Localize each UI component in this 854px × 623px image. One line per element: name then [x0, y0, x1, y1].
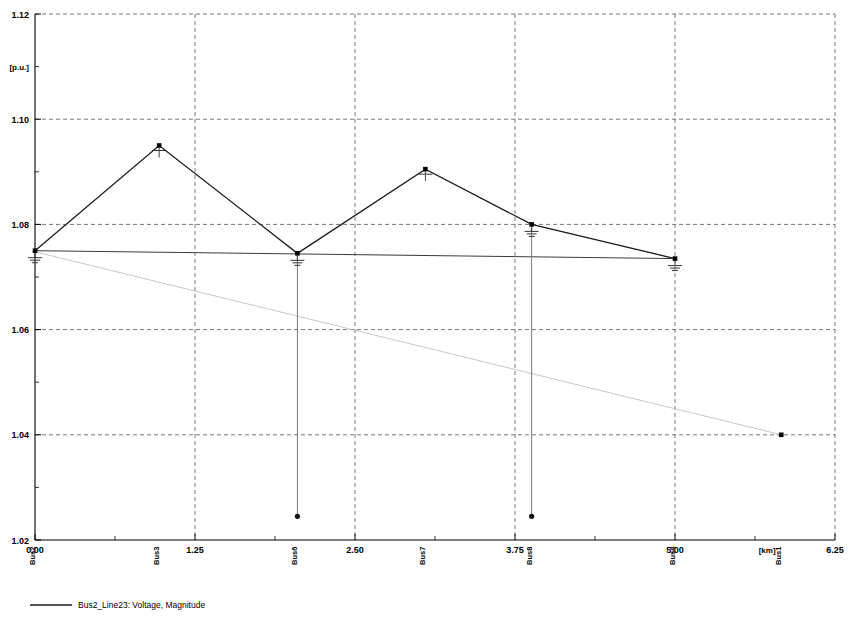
bus-axis-label-Bus8: Bus8 — [525, 547, 534, 565]
y-tick-label-1.06: 1.06 — [11, 325, 29, 335]
node-dot-Bus4 — [673, 256, 678, 261]
bus-axis-label-Bus6: Bus6 — [290, 547, 299, 565]
chart-canvas: 0.001.252.503.755.006.25 1.121.101.081.0… — [0, 0, 854, 623]
node-dot-Bus2 — [33, 248, 38, 253]
drop-endpoint-Bus6 — [295, 514, 300, 519]
bus-axis-label-Bus4: Bus4 — [668, 546, 677, 565]
voltage-profile-chart: 0.001.252.503.755.006.25 1.121.101.081.0… — [0, 0, 854, 623]
y-tick-label-1.10: 1.10 — [11, 115, 29, 125]
x-tick-label-3.75: 3.75 — [506, 545, 524, 555]
bus-axis-label-Bus2: Bus2 — [28, 547, 37, 565]
x-tick-label-6.25: 6.25 — [826, 545, 844, 555]
x-tick-label-1.25: 1.25 — [186, 545, 204, 555]
node-dot-Bus3 — [157, 143, 162, 148]
x-tick-label-2.50: 2.50 — [346, 545, 364, 555]
bus-axis-label-Bus3: Bus3 — [152, 547, 161, 565]
bus-axis-label-Bus7: Bus7 — [418, 547, 427, 565]
y-tick-label-1.12: 1.12 — [11, 10, 29, 20]
drop-endpoint-Bus8 — [529, 514, 534, 519]
chart-background — [0, 0, 854, 623]
y-tick-label-1.04: 1.04 — [11, 430, 29, 440]
node-dot-Bus6 — [295, 251, 300, 256]
node-dot-Bus1 — [779, 433, 784, 438]
node-dot-Bus7 — [423, 167, 428, 172]
y-tick-label-1.02: 1.02 — [11, 536, 29, 546]
y-axis-unit-label: [p.u.] — [9, 63, 29, 72]
y-tick-label-1.08: 1.08 — [11, 220, 29, 230]
node-dot-Bus8 — [529, 222, 534, 227]
node-marker-Bus1 — [779, 433, 784, 438]
x-axis-unit-label: [km] — [759, 546, 776, 555]
legend-label-0[interactable]: Bus2_Line23: Voltage, Magnitude — [78, 600, 205, 610]
